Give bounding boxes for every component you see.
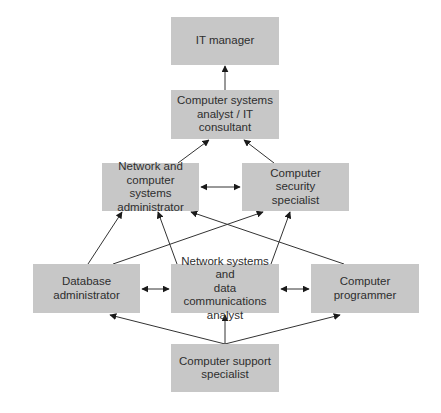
edge-database-to-netadmin xyxy=(88,212,122,264)
career-path-diagram: IT manager Computer systems analyst / IT… xyxy=(0,0,441,413)
node-label: Computer programmer xyxy=(334,275,397,302)
node-label: IT manager xyxy=(196,34,255,48)
node-label: Computer systems analyst / IT consultant xyxy=(175,94,275,135)
node-label: Computer support specialist xyxy=(179,355,271,382)
node-systems-analyst: Computer systems analyst / IT consultant xyxy=(171,90,279,139)
node-label: Network systems and data communications … xyxy=(175,255,275,323)
node-support-specialist: Computer support specialist xyxy=(171,344,279,392)
node-label: Database administrator xyxy=(53,275,119,302)
node-label: Network and computer systems administrat… xyxy=(106,160,195,214)
edge-security-to-analyst xyxy=(244,140,274,163)
node-label: Computer security specialist xyxy=(270,167,321,208)
node-database-admin: Database administrator xyxy=(33,264,140,313)
node-network-admin: Network and computer systems administrat… xyxy=(102,163,199,211)
node-it-manager: IT manager xyxy=(171,17,279,65)
node-security-specialist: Computer security specialist xyxy=(242,163,349,211)
node-network-analyst: Network systems and data communications … xyxy=(171,264,279,313)
node-programmer: Computer programmer xyxy=(311,264,419,313)
